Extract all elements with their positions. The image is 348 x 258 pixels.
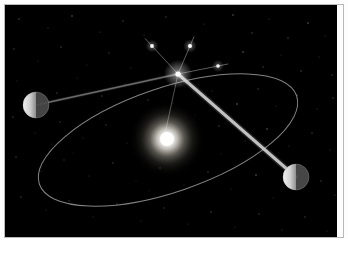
- background-star: [257, 88, 258, 89]
- background-star: [143, 34, 144, 35]
- background-star: [287, 37, 288, 38]
- reference-star-core: [216, 64, 220, 68]
- background-star: [71, 15, 73, 17]
- background-star: [244, 140, 245, 141]
- background-star: [147, 99, 148, 100]
- background-star: [288, 145, 289, 146]
- background-star: [304, 216, 305, 217]
- background-star: [140, 220, 141, 221]
- caption-strip: [0, 239, 348, 258]
- background-star: [63, 159, 64, 160]
- background-star: [12, 116, 13, 117]
- background-star: [97, 111, 98, 112]
- background-star: [334, 194, 335, 195]
- background-star: [82, 137, 83, 138]
- background-star: [318, 56, 319, 57]
- background-star: [329, 149, 330, 150]
- background-star: [258, 213, 259, 214]
- planet: [23, 92, 49, 118]
- background-star: [332, 97, 333, 98]
- background-star: [165, 16, 166, 17]
- background-star: [187, 223, 188, 224]
- background-star: [210, 211, 211, 212]
- sun: [129, 101, 205, 177]
- background-star: [163, 207, 164, 208]
- background-star: [56, 92, 57, 93]
- background-star: [135, 180, 136, 181]
- background-star: [221, 154, 222, 155]
- background-star: [326, 230, 327, 231]
- background-star: [47, 27, 48, 28]
- background-star: [60, 46, 61, 47]
- background-star: [234, 226, 235, 227]
- background-star: [68, 200, 69, 201]
- background-star: [112, 162, 113, 163]
- background-star: [34, 132, 35, 133]
- background-star: [232, 14, 234, 16]
- parallax-figure: [0, 0, 348, 258]
- background-star: [273, 198, 274, 199]
- background-star: [307, 22, 309, 24]
- sky-canvas: [5, 5, 337, 237]
- background-star: [324, 35, 325, 36]
- background-star: [59, 121, 60, 122]
- background-star: [101, 95, 102, 96]
- background-star: [76, 77, 77, 78]
- background-star: [20, 196, 21, 197]
- background-star: [242, 51, 244, 53]
- background-star: [40, 170, 41, 171]
- background-star: [18, 18, 19, 19]
- background-star: [88, 175, 89, 176]
- sight-line: [36, 74, 178, 105]
- reference-star-core: [188, 44, 192, 48]
- sky-area: [5, 5, 337, 237]
- planet-lit-side: [23, 92, 36, 118]
- background-star: [92, 216, 93, 217]
- background-star: [320, 180, 321, 181]
- background-star: [37, 60, 38, 61]
- background-star: [86, 64, 87, 65]
- background-star: [149, 191, 150, 192]
- background-star: [15, 156, 16, 157]
- background-star: [13, 48, 14, 49]
- background-star: [262, 66, 263, 67]
- sun-core: [160, 132, 174, 146]
- background-star: [211, 90, 212, 91]
- background-star: [300, 70, 301, 71]
- background-star: [130, 67, 131, 68]
- background-star: [207, 171, 208, 172]
- reference-star-core: [150, 44, 154, 48]
- background-star: [99, 31, 100, 32]
- background-star: [281, 229, 282, 230]
- background-star: [203, 23, 204, 24]
- background-star: [236, 103, 238, 105]
- background-star: [108, 52, 109, 53]
- background-star: [311, 132, 312, 133]
- background-star: [255, 174, 257, 176]
- background-star: [73, 153, 74, 154]
- background-star: [16, 80, 17, 81]
- background-star: [280, 54, 281, 55]
- background-star: [266, 128, 268, 130]
- background-star: [51, 143, 52, 144]
- background-star: [230, 188, 231, 189]
- background-star: [316, 108, 317, 109]
- background-star: [251, 32, 252, 33]
- background-star: [218, 125, 219, 126]
- planet: [283, 164, 309, 190]
- background-star: [122, 20, 123, 21]
- background-star: [183, 184, 184, 185]
- background-star: [268, 18, 269, 19]
- background-star: [105, 124, 106, 125]
- background-star: [45, 209, 46, 210]
- target-star: [164, 60, 193, 89]
- target-star-core: [175, 71, 180, 76]
- background-star: [275, 105, 276, 106]
- background-star: [331, 74, 332, 75]
- background-star: [126, 142, 127, 143]
